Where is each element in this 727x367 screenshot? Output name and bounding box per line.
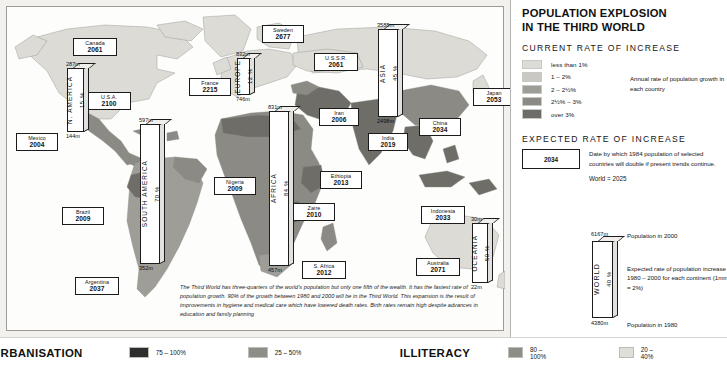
illiteracy-key-label: 80 – 100%	[530, 346, 551, 360]
world-bar-name: WORLD	[593, 263, 600, 295]
country-box-china: China2034	[419, 118, 461, 136]
bar-top-value: 831m	[268, 104, 282, 110]
bar-top-value: 597m	[139, 117, 153, 123]
urbanisation-key: 75 – 100%	[129, 347, 186, 358]
current-rate-note: Annual rate of population growth in each…	[630, 74, 727, 93]
continent-bar-n-america: N. AMERICA15 %	[67, 68, 84, 132]
country-box-australia: Australia2071	[416, 258, 460, 276]
bar-bottom-value: 144m	[66, 133, 80, 139]
world-bar-labels: WORLD 40 %	[592, 241, 613, 318]
current-rate-key: less than 1%1 – 2%2 – 2½%2½% – 3%over 3%…	[522, 58, 719, 120]
country-doubling-year: 2215	[191, 87, 229, 94]
rate-class-swatch	[522, 72, 542, 82]
urbanisation-key: 25 – 50%	[248, 347, 302, 358]
bar-labels: SOUTH AMERICA70 %	[140, 124, 160, 264]
expected-rate-key: 2034 Date by which 1984 population of se…	[522, 149, 719, 182]
rate-class-label: 2 – 2½%	[551, 86, 576, 93]
bar-side	[398, 26, 403, 117]
illiteracy-key-swatch	[508, 347, 523, 358]
bar-side	[160, 121, 165, 264]
country-box-india: India2019	[368, 133, 408, 151]
country-doubling-year: 2033	[423, 215, 463, 222]
rate-class-label: 2½% – 3%	[551, 98, 582, 105]
country-box-brazil: Brazil2009	[62, 207, 104, 225]
urbanisation-key-swatch	[129, 347, 149, 358]
bar-top-value: 287m	[66, 61, 80, 67]
bar-labels: N. AMERICA15 %	[67, 68, 84, 132]
country-box-canada: Canada2061	[73, 38, 117, 56]
bar-region-name: OCEANIA	[471, 235, 478, 271]
bar-labels: OCEANIA50 %	[472, 223, 488, 283]
bar-percent: 70 %	[154, 186, 160, 202]
legend-title-line2: IN THE THIRD WORLD	[522, 21, 645, 33]
legend-title-line1: POPULATION EXPLOSION	[522, 7, 667, 19]
bar-labels: AFRICA84 %	[269, 111, 289, 266]
bar-region-name: AFRICA	[270, 173, 277, 203]
rate-class-row: 2½% – 3%	[522, 95, 719, 107]
country-doubling-year: 2009	[64, 216, 102, 223]
bar-percent: 84 %	[283, 180, 289, 196]
current-rate-heading: CURRENT RATE OF INCREASE	[522, 43, 719, 53]
world-bar-key: WORLD 40 % 6167m 4380m Population in 200…	[587, 230, 727, 330]
country-box-ethiopia: Ethiopia2013	[320, 171, 362, 189]
rate-class-label: 1 – 2%	[551, 73, 571, 80]
legend-panel: POPULATION EXPLOSION IN THE THIRD WORLD …	[510, 0, 727, 337]
bar-labels: EUROPE12 %	[237, 58, 250, 95]
world-bar-top-note: Population in 2000	[627, 231, 727, 240]
bar-top-value: 3588m	[377, 22, 394, 28]
world-bar-pct: 40 %	[606, 271, 612, 287]
world-doubling-year: World = 2025	[589, 175, 717, 182]
bar-bottom-value: 2498m	[377, 118, 394, 124]
country-box-u-s-s-r: U.S.S.R.2061	[314, 53, 358, 71]
country-box-u-s-a: U.S.A.2100	[87, 92, 131, 110]
bar-bottom-value: 457m	[268, 267, 282, 273]
map-panel: Canada2061U.S.A.2100Mexico2004Brazil2009…	[0, 0, 510, 337]
expected-rate-heading: EXPECTED RATE OF INCREASE	[522, 134, 719, 144]
country-doubling-year: 2061	[316, 62, 356, 69]
bar-percent: 15 %	[79, 92, 85, 108]
urbanisation-title: URBANISATION	[0, 347, 83, 359]
expected-rate-block: EXPECTED RATE OF INCREASE 2034 Date by w…	[522, 134, 719, 182]
rate-class-swatch	[522, 85, 542, 95]
continent-bar-africa: AFRICA84 %	[269, 111, 289, 266]
country-doubling-year: 2004	[18, 142, 56, 149]
country-doubling-year: 2013	[322, 180, 360, 187]
country-doubling-year: 2061	[75, 47, 115, 54]
world-bar-side-note: Expected rate of population increase 198…	[627, 264, 727, 292]
bar-region-name: ASIA	[379, 64, 386, 83]
bar-region-name: SOUTH AMERICA	[141, 160, 148, 227]
country-box-nigeria: Nigeria2009	[214, 177, 256, 195]
world-bar-side	[613, 238, 618, 318]
continent-bar-oceania: OCEANIA50 %	[472, 223, 488, 283]
world-bar-top-value: 6167m	[591, 231, 608, 237]
country-doubling-year: 2053	[475, 97, 510, 104]
continent-bar-asia: ASIA45 %	[378, 29, 398, 117]
country-doubling-year: 2012	[304, 270, 344, 277]
country-box-mexico: Mexico2004	[16, 133, 58, 151]
bottom-key-bar: URBANISATION 75 – 100%25 – 50% ILLITERAC…	[0, 337, 727, 367]
illiteracy-key-swatch	[619, 347, 633, 358]
bar-bottom-value: 22m	[471, 284, 482, 290]
urbanisation-key-swatch	[248, 347, 268, 358]
bar-top-value: 832m	[236, 51, 250, 57]
rate-class-row: less than 1%	[522, 58, 719, 70]
world-bar-bottom-value: 4380m	[591, 320, 608, 326]
bar-labels: ASIA45 %	[378, 29, 398, 117]
rate-class-swatch	[522, 97, 542, 107]
country-doubling-year: 2100	[89, 101, 129, 108]
urbanisation-section: URBANISATION 75 – 100%25 – 50%	[0, 338, 400, 367]
country-box-japan: Japan2053	[473, 88, 510, 106]
country-box-sweden: Sweden2677	[262, 25, 304, 43]
country-box-indonesia: Indonesia2033	[421, 206, 465, 224]
illiteracy-key: 80 – 100%	[508, 346, 551, 360]
bar-top-value: 30m	[471, 216, 482, 222]
country-box-france: France2215	[189, 78, 231, 96]
rate-class-swatch	[522, 60, 542, 70]
bar-region-name: N. AMERICA	[66, 76, 73, 124]
continent-bar-south-america: SOUTH AMERICA70 %	[140, 124, 160, 264]
country-box-zaire: Zaire2010	[293, 203, 335, 221]
map-description: The Third World has three-quarters of th…	[180, 283, 480, 319]
bar-percent: 50 %	[484, 245, 490, 261]
expected-rate-note: Date by which 1984 population of selecte…	[589, 149, 717, 168]
country-doubling-year: 2037	[77, 286, 117, 293]
